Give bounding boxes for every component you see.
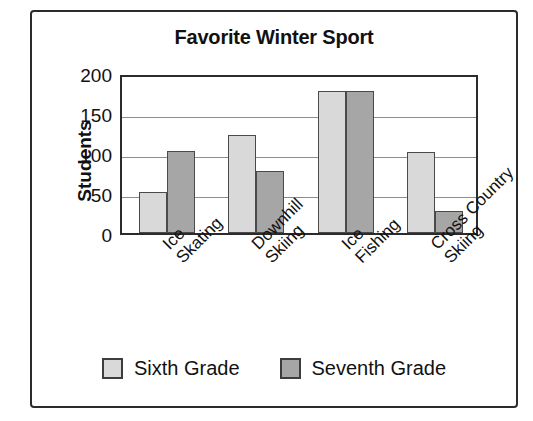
bar-ice-skating-sixth-grade	[139, 192, 167, 233]
y-tick-label-50: 50	[60, 186, 112, 205]
legend-item-seventh-grade[interactable]: Seventh Grade	[280, 357, 447, 380]
y-tick-label-150: 150	[60, 106, 112, 125]
legend-label: Sixth Grade	[134, 357, 240, 380]
x-axis-category-labels: IceSkatingDownhillSkiingIceFishingCross …	[120, 240, 478, 358]
legend-swatch-icon	[280, 358, 301, 379]
bar-cross-country-skiing-sixth-grade	[407, 152, 435, 233]
y-tick-label-200: 200	[60, 66, 112, 85]
bar-downhill-skiing-sixth-grade	[228, 135, 256, 233]
y-tick-label-0: 0	[60, 226, 112, 245]
legend-swatch-icon	[102, 358, 123, 379]
y-axis-tick-labels: 050100150200	[60, 75, 116, 235]
bar-ice-fishing-sixth-grade	[318, 91, 346, 233]
legend-item-sixth-grade[interactable]: Sixth Grade	[102, 357, 240, 380]
chart-legend: Sixth GradeSeventh Grade	[32, 357, 516, 380]
chart-title: Favorite Winter Sport	[32, 26, 516, 49]
chart-figure: Favorite Winter Sport Students 050100150…	[30, 10, 518, 408]
legend-label: Seventh Grade	[312, 357, 447, 380]
y-tick-label-100: 100	[60, 146, 112, 165]
